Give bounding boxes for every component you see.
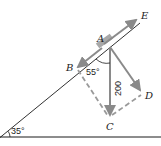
label-angle-55: 55° <box>86 67 100 77</box>
dashed-cd <box>112 95 141 115</box>
label-e: E <box>140 10 149 21</box>
incline-angle-arc <box>8 131 10 137</box>
angle-arc-55 <box>96 59 110 63</box>
label-angle-35: 35° <box>11 126 25 136</box>
label-d: D <box>144 90 153 101</box>
label-a: A <box>96 33 104 44</box>
force-diagram: E A B C D 55° 35° 200 <box>0 0 161 146</box>
vector-ae <box>104 20 136 44</box>
incline-line <box>0 23 140 138</box>
label-b: B <box>65 62 73 73</box>
label-c: C <box>106 121 114 132</box>
label-force-200: 200 <box>113 81 123 96</box>
